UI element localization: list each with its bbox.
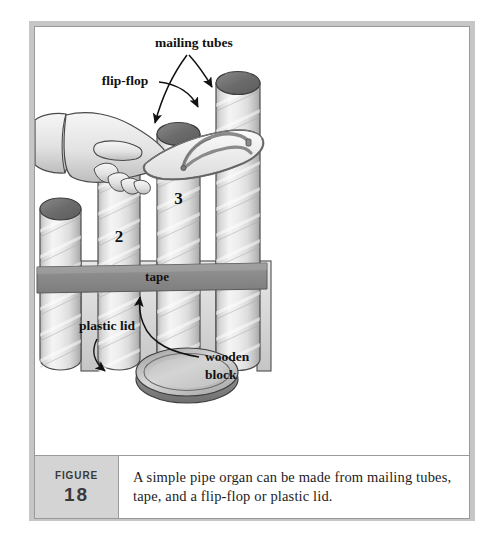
tape-label: tape <box>145 269 169 284</box>
callout-flip-flop: flip-flop <box>102 73 198 107</box>
wooden-block-label-line1: wooden <box>205 349 250 364</box>
figure-caption-strip: Figure 18 A simple pipe organ can be mad… <box>34 455 470 519</box>
pipe-organ-illustration: 1 2 <box>35 27 469 448</box>
tube-2-number: 2 <box>115 227 124 246</box>
flip-flop-label: flip-flop <box>102 73 149 88</box>
tape-band: tape <box>37 263 267 293</box>
illustration-stage: 1 2 <box>35 27 469 448</box>
figure-caption-text: A simple pipe organ can be made from mai… <box>133 468 455 506</box>
plastic-lid-label: plastic lid <box>79 318 135 333</box>
mailing-tube-4: 4 <box>212 72 264 371</box>
mailing-tubes-label: mailing tubes <box>155 35 233 50</box>
figure-number: 18 <box>64 485 89 504</box>
wooden-block-label-line2: block <box>205 367 237 382</box>
tube-3-number: 3 <box>174 189 183 208</box>
figure-caption-box: A simple pipe organ can be made from mai… <box>119 455 470 519</box>
figure-number-box: Figure 18 <box>34 455 119 519</box>
figure-word: Figure <box>55 471 98 481</box>
figure-page: 1 2 <box>0 0 502 542</box>
